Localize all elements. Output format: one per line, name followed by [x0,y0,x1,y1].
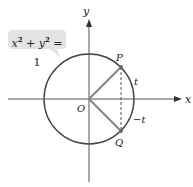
point-p [119,65,123,69]
x-axis-label: x [185,93,192,106]
arc-t-label: t [134,76,139,87]
point-p-label: P [115,52,123,63]
origin-label: O [77,103,85,114]
x-axis-arrow-icon [174,96,182,102]
point-q-label: Q [115,137,123,148]
point-q [119,129,123,133]
radius-op [89,67,121,99]
radius-oq [89,99,121,131]
y-axis-arrow-icon [86,19,92,27]
unit-circle-diagram: x y O P Q t −t [0,0,193,187]
arc-neg-t-label: −t [133,114,146,125]
y-axis-label: y [82,5,90,18]
callout-pointer [48,48,61,58]
